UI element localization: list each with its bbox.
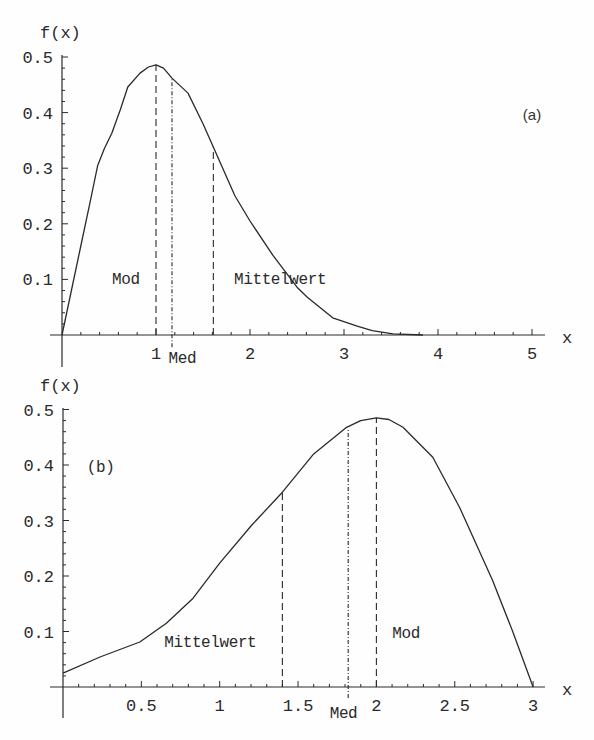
y-tick-label: 0.1 xyxy=(22,271,53,290)
figure: 123450.10.20.30.40.5f(x)xModMedMittelwer… xyxy=(0,0,594,740)
y-tick-label: 0.4 xyxy=(23,457,54,476)
x-tick-label: 1 xyxy=(215,697,225,716)
mittelwert-label: Mittelwert xyxy=(164,634,256,652)
y-tick-label: 0.3 xyxy=(22,160,53,179)
y-tick-label: 0.1 xyxy=(23,624,54,643)
mod-label: Mod xyxy=(112,271,140,289)
figure-canvas: 123450.10.20.30.40.5f(x)xModMedMittelwer… xyxy=(0,0,594,740)
x-tick-label: 5 xyxy=(527,345,537,364)
panel-label: (b) xyxy=(87,459,115,477)
x-tick-label: 1 xyxy=(151,345,161,364)
x-tick-label: 3 xyxy=(528,697,538,716)
density-curve xyxy=(63,418,533,687)
y-axis-title: f(x) xyxy=(40,377,81,396)
x-tick-label: 2 xyxy=(371,697,381,716)
chart-panel-a: 123450.10.20.30.40.5f(x)xModMedMittelwer… xyxy=(22,24,572,368)
y-tick-label: 0.2 xyxy=(23,568,54,587)
y-tick-label: 0.5 xyxy=(23,402,54,421)
y-axis-title: f(x) xyxy=(40,24,81,43)
med-label: Med xyxy=(169,350,197,368)
y-tick-label: 0.2 xyxy=(22,216,53,235)
x-tick-label: 1.5 xyxy=(283,697,314,716)
mod-label: Mod xyxy=(392,625,420,643)
x-tick-label: 3 xyxy=(339,345,349,364)
x-tick-label: 4 xyxy=(433,345,443,364)
y-tick-label: 0.5 xyxy=(22,49,53,68)
med-label: Med xyxy=(330,705,358,723)
chart-panel-b: 0.511.522.530.10.20.30.40.5f(x)x(b)Mitte… xyxy=(23,377,572,723)
x-tick-label: 0.5 xyxy=(126,697,157,716)
y-tick-label: 0.3 xyxy=(23,513,54,532)
x-tick-label: 2.5 xyxy=(439,697,470,716)
x-axis-title: x xyxy=(562,681,572,700)
mittelwert-label: Mittelwert xyxy=(234,271,326,289)
x-axis-title: x xyxy=(562,329,572,348)
y-tick-label: 0.4 xyxy=(22,105,53,124)
panel-label: (a) xyxy=(523,106,541,123)
density-curve xyxy=(62,65,423,335)
x-tick-label: 2 xyxy=(245,345,255,364)
